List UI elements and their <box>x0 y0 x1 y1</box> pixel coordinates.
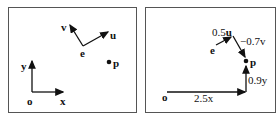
y-term-label: 0.9y <box>248 74 268 86</box>
x-label: x <box>60 95 66 107</box>
v-vector-arrow <box>70 25 83 46</box>
u-term-label: 0.5u <box>212 26 232 38</box>
e-label: e <box>210 44 215 56</box>
left-panel: o x y e u v p <box>9 8 137 113</box>
right-panel: o 2.5x 0.9y e 0.5u −0.7v p <box>146 8 276 113</box>
v-term-label: −0.7v <box>240 35 266 47</box>
point-p <box>107 60 112 65</box>
u-label: u <box>110 29 116 41</box>
point-p <box>244 59 249 64</box>
p-label: p <box>250 56 256 68</box>
origin-label: o <box>162 91 168 103</box>
y-label: y <box>21 60 27 72</box>
coordinate-frames-diagram: o x y e u v p o 2.5x 0.9y e 0.5u −0.7v p <box>0 0 280 120</box>
origin-label: o <box>27 95 33 107</box>
p-label: p <box>113 57 119 69</box>
u-component-arrow <box>216 37 231 45</box>
u-vector-arrow <box>83 32 108 46</box>
x-term-label: 2.5x <box>194 92 214 104</box>
v-label: v <box>61 21 67 33</box>
e-label: e <box>80 47 85 59</box>
